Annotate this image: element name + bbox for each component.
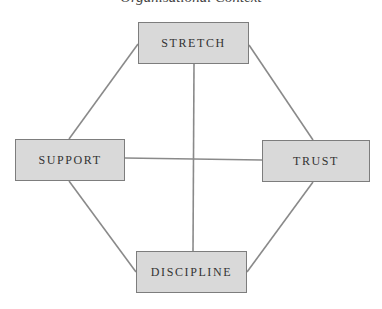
node-trust: TRUST [262,140,370,182]
edge-stretch-trust [249,45,313,140]
node-stretch: STRETCH [138,22,249,64]
node-label: DISCIPLINE [151,265,232,280]
node-label: STRETCH [161,36,226,51]
edge-trust-discipline [247,182,313,272]
edge-stretch-discipline [193,64,194,251]
edge-stretch-support [69,44,138,139]
node-discipline: DISCIPLINE [136,251,247,293]
node-label: TRUST [293,154,339,169]
edge-support-trust [125,158,262,160]
node-label: SUPPORT [38,153,101,168]
edge-support-discipline [69,181,136,272]
node-support: SUPPORT [15,139,125,181]
